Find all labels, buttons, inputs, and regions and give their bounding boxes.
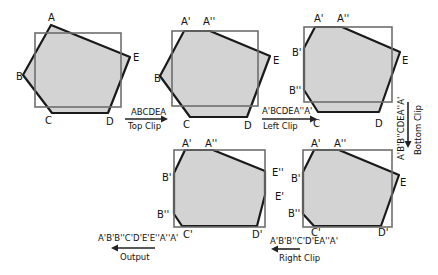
vertex-label-b1: B'	[291, 173, 301, 184]
vertex-label-a2: A''	[205, 138, 217, 149]
polygon-after-bottom-clip	[303, 150, 399, 226]
vertex-label-e: E	[402, 55, 408, 66]
vertex-label-d1: D'	[252, 229, 262, 240]
sequence-label: ABCDEA	[131, 107, 166, 117]
transition-output: A'B'B''C'D'E'E''A''A' Output	[98, 233, 178, 262]
operation-label: Left Clip	[263, 121, 298, 131]
vertex-label-c1: C'	[183, 229, 193, 240]
transition-bottom-clip: A'B'B''CDEA''A' Bottom Clip	[396, 97, 423, 160]
clipping-diagram: A B C D E ABCDEA Top Clip A' A'' B C D E…	[0, 0, 438, 275]
vertex-label-a1: A'	[181, 16, 191, 27]
vertex-label-d: D	[106, 116, 114, 127]
vertex-label-e: E	[400, 177, 406, 188]
vertex-label-b: B	[154, 73, 161, 84]
stage-after-top-clip: A' A'' B C D E	[154, 16, 279, 131]
vertex-label-b: B	[16, 71, 23, 82]
sequence-label: A'B'B''C'D'EA''A'	[270, 236, 338, 246]
sequence-label: A'BCDEA''A'	[262, 106, 312, 116]
vertex-label-d: D	[375, 118, 383, 129]
vertex-label-a2: A''	[334, 138, 346, 149]
sequence-label: A'B'B''CDEA''A'	[396, 97, 406, 160]
vertex-label-a1: A'	[314, 13, 324, 24]
vertex-label-a2: A''	[203, 16, 215, 27]
vertex-label-a1: A'	[182, 138, 192, 149]
polygon-after-right-clip	[174, 150, 265, 226]
vertex-label-c: C	[313, 118, 320, 129]
vertex-label-c: C	[183, 119, 190, 130]
stage-after-right-clip: A' A'' B' B'' C' D' E'' E'	[157, 138, 284, 240]
polygon-after-left-clip	[304, 27, 400, 112]
arrow-head	[111, 245, 118, 252]
vertex-label-d1: D'	[378, 227, 388, 238]
operation-label: Output	[120, 252, 150, 262]
vertex-label-a2: A''	[337, 13, 349, 24]
vertex-label-c: C	[45, 115, 52, 126]
vertex-label-b1: B'	[162, 172, 172, 183]
operation-label: Bottom Clip	[413, 105, 423, 155]
vertex-label-e1: E'	[275, 191, 284, 202]
vertex-label-a: A	[48, 12, 55, 23]
polygon-after-top-clip	[160, 31, 270, 117]
vertex-label-b1: B'	[292, 47, 302, 58]
arrow-head	[271, 246, 278, 253]
vertex-label-b2: B''	[157, 209, 169, 220]
vertex-label-b2: B''	[288, 208, 300, 219]
operation-label: Top Clip	[127, 121, 161, 131]
sequence-label: A'B'B''C'D'E'E''A''A'	[98, 233, 178, 243]
transition-right-clip: A'B'B''C'D'EA''A' Right Clip	[270, 236, 338, 263]
vertex-label-e2: E''	[272, 167, 284, 178]
vertex-label-e: E	[273, 55, 279, 66]
vertex-label-e: E	[133, 52, 139, 63]
transition-left-clip: A'BCDEA''A' Left Clip	[262, 106, 317, 131]
operation-label: Right Clip	[279, 253, 320, 263]
stage-after-bottom-clip: A' A'' B' B'' C' D' E	[288, 138, 406, 238]
vertex-label-b2: B''	[289, 85, 301, 96]
vertex-label-a1: A'	[311, 138, 321, 149]
transition-top-clip: ABCDEA Top Clip	[125, 107, 168, 131]
polygon-original	[23, 25, 130, 113]
vertex-label-d: D	[244, 120, 252, 131]
stage-original: A B C D E	[16, 12, 139, 127]
